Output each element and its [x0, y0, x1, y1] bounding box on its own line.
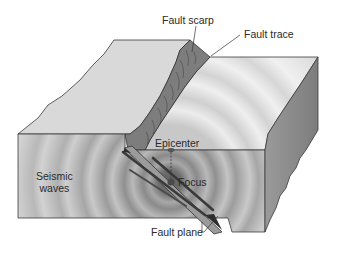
- label-focus: Focus: [178, 176, 207, 188]
- label-epicenter: Epicenter: [155, 137, 199, 149]
- label-seismic-waves-line2: waves: [36, 182, 73, 194]
- focus-marker: [168, 179, 175, 186]
- fault-trace-leader: [211, 35, 240, 56]
- label-fault-trace: Fault trace: [244, 28, 294, 40]
- fault-diagram: Fault scarp Fault trace Epicenter Focus …: [0, 0, 337, 253]
- label-fault-scarp: Fault scarp: [162, 14, 214, 26]
- label-fault-plane: Fault plane: [151, 226, 203, 238]
- label-seismic-waves: Seismic waves: [36, 170, 73, 194]
- label-seismic-waves-line1: Seismic: [36, 170, 73, 182]
